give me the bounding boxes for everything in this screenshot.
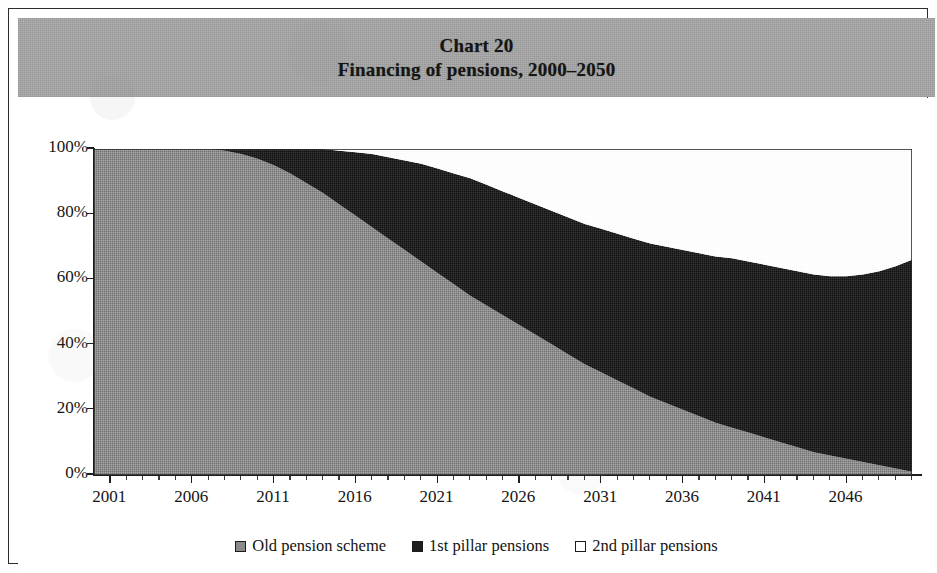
x-axis-minor-tick-mark (747, 476, 748, 480)
x-axis-minor-tick-mark (502, 476, 503, 480)
x-axis-tick-label: 2021 (420, 487, 454, 507)
x-axis-tick-mark (764, 476, 765, 483)
x-axis-tick-mark (846, 476, 847, 483)
x-axis-minor-tick-mark (698, 476, 699, 480)
x-axis-minor-tick-mark (486, 476, 487, 480)
x-axis-minor-tick-mark (796, 476, 797, 480)
x-axis-tick-label: 2026 (501, 487, 535, 507)
x-axis-tick-label: 2011 (256, 487, 289, 507)
x-axis-tick-mark (682, 476, 683, 483)
x-axis-minor-tick-mark (878, 476, 879, 480)
figure-root: Chart 20 Financing of pensions, 2000–205… (0, 0, 937, 573)
x-axis-minor-tick-mark (813, 476, 814, 480)
x-axis-minor-tick-mark (420, 476, 421, 480)
x-axis-minor-tick-mark (322, 476, 323, 480)
x-axis-tick-label: 2016 (338, 487, 372, 507)
y-axis-tick-label: 60% (18, 267, 97, 287)
stacked-area-chart (94, 149, 912, 475)
legend-item[interactable]: 1st pillar pensions (412, 536, 549, 556)
y-axis-tick-mark (87, 408, 94, 409)
x-axis-minor-tick-mark (862, 476, 863, 480)
x-axis-minor-tick-mark (731, 476, 732, 480)
x-axis-tick-label: 2001 (92, 487, 126, 507)
x-axis-minor-tick-mark (567, 476, 568, 480)
x-axis-minor-tick-mark (224, 476, 225, 480)
x-axis-minor-tick-mark (257, 476, 258, 480)
y-axis-tick-label: 100% (18, 137, 97, 157)
y-axis-tick-mark (87, 147, 94, 148)
x-axis-minor-tick-mark (469, 476, 470, 480)
x-axis-minor-tick-mark (617, 476, 618, 480)
chart-title: Chart 20 (440, 34, 514, 57)
y-axis-tick-label: 40% (18, 333, 97, 353)
y-axis-tick-mark (87, 278, 94, 279)
x-axis-minor-tick-mark (306, 476, 307, 480)
x-axis-tick-mark (109, 476, 110, 483)
x-axis-minor-tick-mark (208, 476, 209, 480)
x-axis-minor-tick-mark (715, 476, 716, 480)
plot-area (94, 149, 912, 475)
y-axis-tick-mark (87, 213, 94, 214)
figure-border: Chart 20 Financing of pensions, 2000–205… (8, 8, 928, 564)
x-axis-minor-tick-mark (649, 476, 650, 480)
figure-title-band: Chart 20 Financing of pensions, 2000–205… (18, 18, 935, 97)
x-axis-minor-tick-mark (289, 476, 290, 480)
x-axis-minor-tick-mark (666, 476, 667, 480)
y-axis-tick-mark (87, 343, 94, 344)
y-axis-tick-label: 0% (18, 463, 97, 483)
legend-label: Old pension scheme (252, 536, 386, 556)
x-axis-tick-label: 2006 (174, 487, 208, 507)
x-axis-minor-tick-mark (829, 476, 830, 480)
x-axis-minor-tick-mark (551, 476, 552, 480)
x-axis-tick-mark (355, 476, 356, 483)
legend-item[interactable]: Old pension scheme (235, 536, 386, 556)
x-axis-minor-tick-mark (126, 476, 127, 480)
x-axis-tick-mark (600, 476, 601, 483)
x-axis-minor-tick-mark (338, 476, 339, 480)
plot-wrapper: 0%20%40%60%80%100% 200120062011201620212… (18, 98, 935, 572)
x-axis-minor-tick-mark (895, 476, 896, 480)
x-axis-minor-tick-mark (535, 476, 536, 480)
x-axis-tick-label: 2041 (747, 487, 781, 507)
x-axis-tick-mark (191, 476, 192, 483)
x-axis-tick-label: 2046 (829, 487, 863, 507)
x-axis-tick-mark (518, 476, 519, 483)
legend-item[interactable]: 2nd pillar pensions (575, 536, 718, 556)
x-axis-minor-tick-mark (911, 476, 912, 480)
x-axis-minor-tick-mark (240, 476, 241, 480)
legend-label: 1st pillar pensions (429, 536, 549, 556)
y-axis-tick-label: 80% (18, 202, 97, 222)
x-axis-minor-tick-mark (404, 476, 405, 480)
x-axis-minor-tick-mark (175, 476, 176, 480)
x-axis-minor-tick-mark (158, 476, 159, 480)
legend-swatch-1st-pillar-pensions (412, 541, 423, 552)
y-axis-tick-mark (87, 473, 94, 474)
x-axis-minor-tick-mark (142, 476, 143, 480)
x-axis-tick-label: 2036 (665, 487, 699, 507)
x-axis-tick-mark (437, 476, 438, 483)
x-axis-minor-tick-mark (453, 476, 454, 480)
x-axis-tick-mark (273, 476, 274, 483)
x-axis-minor-tick-mark (371, 476, 372, 480)
legend-label: 2nd pillar pensions (592, 536, 718, 556)
legend-swatch-2nd-pillar-pensions (575, 541, 586, 552)
x-axis-tick-label: 2031 (583, 487, 617, 507)
chart-subtitle: Financing of pensions, 2000–2050 (338, 58, 616, 81)
x-axis-minor-tick-mark (633, 476, 634, 480)
x-axis-minor-tick-mark (584, 476, 585, 480)
legend-swatch-old-pension-scheme (235, 541, 246, 552)
x-axis-minor-tick-mark (780, 476, 781, 480)
chart-legend: Old pension scheme1st pillar pensions2nd… (18, 536, 935, 556)
x-axis-minor-tick-mark (387, 476, 388, 480)
y-axis-tick-label: 20% (18, 398, 97, 418)
